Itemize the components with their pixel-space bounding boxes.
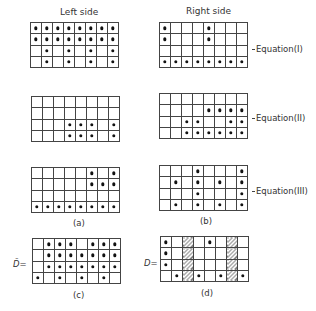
empty-cell — [109, 97, 120, 108]
dot-cell — [161, 259, 172, 270]
dot-cell — [226, 116, 237, 127]
empty-cell — [182, 166, 193, 177]
empty-cell — [237, 23, 248, 34]
empty-cell — [54, 97, 65, 108]
dot-cell — [64, 23, 75, 34]
dot-cell — [237, 166, 248, 177]
empty-cell — [88, 272, 99, 283]
empty-cell — [204, 45, 215, 56]
eq3-right-grid — [159, 165, 248, 211]
dot-cell — [97, 34, 108, 45]
dot-cell — [86, 34, 97, 45]
grid-row — [160, 45, 248, 56]
empty-cell — [182, 105, 193, 116]
grid-row — [32, 119, 120, 130]
dot-cell — [215, 177, 226, 188]
empty-cell — [226, 45, 237, 56]
eq1-right-grid — [159, 22, 248, 68]
grid-row — [160, 105, 248, 116]
grid-row — [160, 34, 248, 45]
empty-cell — [172, 237, 183, 248]
empty-cell — [171, 116, 182, 127]
empty-cell — [205, 248, 216, 259]
grid-row — [160, 94, 248, 105]
empty-cell — [43, 119, 54, 130]
dot-cell — [42, 56, 53, 67]
grid-row — [160, 127, 248, 138]
empty-cell — [160, 116, 171, 127]
dot-cell — [76, 201, 87, 212]
empty-cell — [215, 116, 226, 127]
empty-cell — [65, 179, 76, 190]
empty-cell — [76, 190, 87, 201]
hatched-cell — [227, 248, 238, 259]
dot-cell — [193, 188, 204, 199]
dot-cell — [65, 119, 76, 130]
empty-cell — [98, 119, 109, 130]
hatched-cell — [183, 259, 194, 270]
grid-row — [31, 45, 119, 56]
dot-cell — [226, 105, 237, 116]
empty-cell — [237, 45, 248, 56]
hatched-cell — [227, 237, 238, 248]
empty-cell — [226, 23, 237, 34]
dot-cell — [237, 127, 248, 138]
dot-cell — [88, 261, 99, 272]
empty-cell — [54, 168, 65, 179]
dot-cell — [182, 116, 193, 127]
dot-cell — [108, 56, 119, 67]
dot-cell — [87, 168, 98, 179]
empty-cell — [160, 177, 171, 188]
dot-cell — [171, 177, 182, 188]
empty-cell — [215, 94, 226, 105]
empty-cell — [54, 108, 65, 119]
empty-cell — [32, 97, 43, 108]
dot-cell — [216, 270, 227, 281]
grid-row — [33, 250, 121, 261]
empty-cell — [54, 119, 65, 130]
dot-cell — [77, 272, 88, 283]
empty-cell — [204, 116, 215, 127]
dot-cell — [109, 119, 120, 130]
dot-cell — [88, 250, 99, 261]
empty-cell — [182, 45, 193, 56]
empty-cell — [205, 259, 216, 270]
empty-cell — [182, 199, 193, 210]
empty-cell — [87, 97, 98, 108]
empty-cell — [171, 105, 182, 116]
dot-cell — [75, 34, 86, 45]
dot-cell — [215, 199, 226, 210]
empty-cell — [204, 177, 215, 188]
dot-cell — [108, 34, 119, 45]
dot-cell — [65, 130, 76, 141]
dot-cell — [237, 105, 248, 116]
dot-cell — [43, 201, 54, 212]
right-side-header: Right side — [186, 6, 231, 16]
empty-cell — [43, 190, 54, 201]
dot-cell — [42, 34, 53, 45]
empty-cell — [226, 34, 237, 45]
empty-cell — [182, 23, 193, 34]
dot-cell — [87, 130, 98, 141]
empty-cell — [65, 97, 76, 108]
dot-cell — [193, 56, 204, 67]
eq2-left-grid — [31, 96, 120, 142]
empty-cell — [65, 108, 76, 119]
grid-row — [32, 130, 120, 141]
empty-cell — [171, 34, 182, 45]
empty-cell — [194, 248, 205, 259]
d-symbol: D= — [144, 258, 158, 268]
dot-cell — [54, 201, 65, 212]
empty-cell — [65, 168, 76, 179]
dot-cell — [161, 248, 172, 259]
dot-cell — [215, 56, 226, 67]
empty-cell — [171, 166, 182, 177]
hatched-cell — [227, 259, 238, 270]
dot-cell — [205, 237, 216, 248]
empty-cell — [76, 168, 87, 179]
empty-cell — [32, 119, 43, 130]
caption-a: (a) — [73, 218, 85, 228]
dot-cell — [237, 199, 248, 210]
grid-row — [32, 108, 120, 119]
dot-cell — [161, 237, 172, 248]
